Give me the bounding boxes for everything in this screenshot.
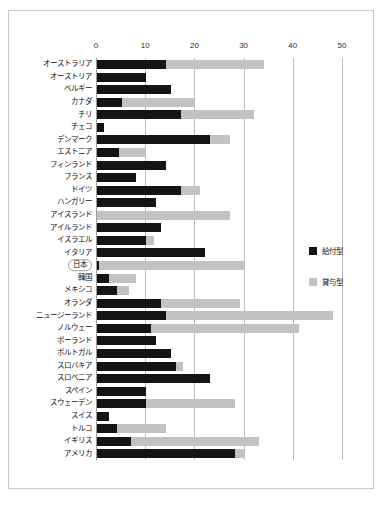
chart-row: スウェーデン — [96, 397, 342, 410]
bar-segment-loan — [166, 60, 264, 69]
bar-segment-loan — [151, 324, 299, 333]
category-label: ノルウェー — [57, 324, 92, 332]
category-label: トルコ — [71, 425, 92, 433]
category-label: ポーランド — [57, 337, 92, 345]
bar-segment-grant — [97, 311, 166, 320]
category-label: オランダ — [64, 299, 92, 307]
bar-segment-loan — [117, 424, 166, 433]
bar-segment-grant — [97, 248, 205, 257]
chart-row: アメリカ — [96, 447, 342, 460]
legend-item: 貸与型 — [309, 276, 379, 287]
chart-row: アイルランド — [96, 221, 342, 234]
chart-row: トルコ — [96, 422, 342, 435]
plot-area: 01020304050 オーストラリアオーストリアベルギーカナダチリチェコデンマ… — [96, 58, 342, 460]
bar-segment-grant — [97, 286, 117, 295]
bar-segment-loan — [235, 449, 245, 458]
category-label: カナダ — [71, 98, 92, 106]
chart-row: スイス — [96, 410, 342, 423]
chart-row: ニュージーランド — [96, 309, 342, 322]
chart-row: チリ — [96, 108, 342, 121]
bar-segment-loan — [166, 311, 333, 320]
bar-segment-grant — [97, 437, 131, 446]
chart-row: フランス — [96, 171, 342, 184]
x-tick-label: 0 — [94, 41, 98, 50]
chart-row: 韓国 — [96, 272, 342, 285]
legend-swatch-icon — [309, 278, 317, 286]
bar-segment-grant — [97, 161, 166, 170]
category-label: イギリス — [64, 437, 92, 445]
bar-segment-grant — [97, 324, 151, 333]
bar-segment-loan — [131, 437, 259, 446]
chart-row: イギリス — [96, 435, 342, 448]
category-label: フィンランド — [50, 161, 92, 169]
x-tick-label: 40 — [288, 41, 297, 50]
bar-segment-loan — [161, 299, 240, 308]
bar-segment-grant — [97, 198, 156, 207]
legend-swatch-icon — [309, 247, 317, 255]
x-tick-label: 50 — [338, 41, 347, 50]
chart-row: スロバキア — [96, 360, 342, 373]
x-tick-label: 20 — [190, 41, 199, 50]
chart-row: オランダ — [96, 297, 342, 310]
category-label: スペイン — [65, 387, 92, 395]
category-label: スロベニア — [57, 375, 92, 383]
chart-row: オーストラリア — [96, 58, 342, 71]
category-label: チェコ — [71, 123, 92, 131]
category-label: スウェーデン — [50, 400, 92, 408]
chart-row: オーストリア — [96, 71, 342, 84]
category-label: 韓国 — [78, 274, 92, 282]
bar-segment-grant — [97, 236, 146, 245]
category-label: ニュージーランド — [36, 312, 92, 320]
chart-row: ノルウェー — [96, 322, 342, 335]
category-label: スイス — [71, 412, 92, 420]
category-label: オーストラリア — [43, 61, 92, 69]
bar-segment-grant — [97, 135, 210, 144]
chart-row: メキシコ — [96, 284, 342, 297]
category-label: スロバキア — [57, 362, 92, 370]
bar-segment-loan — [146, 399, 235, 408]
bar-segment-grant — [97, 73, 146, 82]
category-label: アイルランド — [50, 224, 92, 232]
bar-segment-grant — [97, 349, 171, 358]
chart-legend: 給付型貸与型 — [309, 245, 379, 307]
chart-row: 日本 — [96, 259, 342, 272]
bar-segment-loan — [119, 148, 146, 157]
category-label: フランス — [64, 174, 92, 182]
legend-label: 給付型 — [322, 245, 343, 256]
chart-row: ハンガリー — [96, 196, 342, 209]
bar-segment-loan — [117, 286, 129, 295]
bar-segment-loan — [181, 110, 255, 119]
category-label: ハンガリー — [57, 199, 92, 207]
bar-segment-grant — [97, 85, 171, 94]
bar-segment-loan — [97, 211, 230, 220]
bar-segment-loan — [176, 362, 183, 371]
chart-row: フィンランド — [96, 159, 342, 172]
chart-row: エストニア — [96, 146, 342, 159]
bar-segment-loan — [146, 236, 153, 245]
bar-segment-grant — [97, 362, 176, 371]
bar-segment-grant — [97, 374, 210, 383]
chart-row: カナダ — [96, 96, 342, 109]
bar-segment-grant — [97, 223, 161, 232]
legend-label: 貸与型 — [322, 276, 343, 287]
bar-segment-loan — [210, 135, 230, 144]
category-label: エストニア — [57, 148, 92, 156]
chart-row: スロベニア — [96, 372, 342, 385]
category-label: イタリア — [64, 249, 92, 257]
category-label: チリ — [78, 111, 92, 119]
bar-segment-grant — [97, 110, 181, 119]
bar-segment-grant — [97, 412, 109, 421]
category-label: アイスランド — [50, 211, 92, 219]
bar-segment-grant — [97, 60, 166, 69]
category-label: ポルトガル — [57, 349, 92, 357]
x-tick-label: 30 — [239, 41, 248, 50]
bar-segment-loan — [109, 274, 136, 283]
bar-segment-loan — [122, 98, 196, 107]
bar-segment-grant — [97, 424, 117, 433]
chart-row: ドイツ — [96, 184, 342, 197]
chart-row: デンマーク — [96, 133, 342, 146]
chart-row: ポーランド — [96, 334, 342, 347]
chart-row: イタリア — [96, 246, 342, 259]
bar-segment-loan — [99, 261, 244, 270]
chart-row: ポルトガル — [96, 347, 342, 360]
